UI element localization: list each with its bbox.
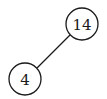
node-label-14: 14 [72,16,91,34]
edge-14-to-4 [37,35,70,68]
node-4: 4 [9,63,41,95]
node-label-4: 4 [20,71,30,89]
node-14: 14 [66,8,98,40]
tree-diagram: 14 4 [0,0,107,99]
